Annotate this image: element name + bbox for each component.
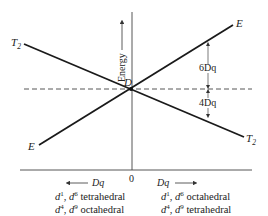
right-caption: d1, d6 octahedral d4, d9 tetrahedral xyxy=(161,190,231,216)
left-caption: d1, d6 tetrahedral d4, d9 octahedral xyxy=(55,190,125,216)
t2-lower-right-label: T2 xyxy=(246,132,256,147)
t2-line xyxy=(24,44,244,137)
6dq-label: 6Dq xyxy=(199,62,216,73)
d-label: D xyxy=(123,76,132,88)
t2-upper-left-label: T2 xyxy=(11,36,21,51)
orgel-diagram: Energy D T2 E E T2 6Dq 4Dq Dq 0 Dq xyxy=(0,0,268,216)
e-upper-right-label: E xyxy=(235,17,243,29)
x-right-label: Dq xyxy=(156,177,169,188)
left-caption-line-2: d4, d9 octahedral xyxy=(55,203,125,216)
right-caption-line-2: d4, d9 tetrahedral xyxy=(161,203,231,216)
left-caption-line-1: d1, d6 tetrahedral xyxy=(55,190,125,203)
right-caption-line-1: d1, d6 octahedral xyxy=(161,190,231,203)
x-left-label: Dq xyxy=(91,177,104,188)
4dq-label: 4Dq xyxy=(199,97,216,108)
e-lower-left-label: E xyxy=(27,140,35,152)
x-origin-label: 0 xyxy=(129,173,134,184)
e-line xyxy=(39,25,233,145)
